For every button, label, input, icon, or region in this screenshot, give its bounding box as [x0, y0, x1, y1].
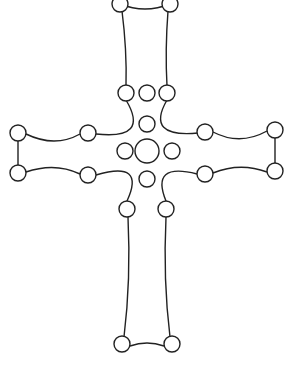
lower-junction-left-node: [119, 201, 135, 217]
lower-right-curve: [162, 171, 197, 201]
cross-nodes: [10, 0, 283, 352]
bottom-arm-left-edge: [124, 217, 129, 337]
center-main-node: [135, 139, 159, 163]
center-left-node: [117, 143, 133, 159]
left-arm-top-edge: [26, 134, 80, 141]
left-arm-bottom-edge: [26, 167, 80, 174]
bottom-arm-right-edge: [165, 217, 170, 337]
lower-left-curve: [96, 171, 132, 201]
center-right-node: [164, 143, 180, 159]
upper-left-curve: [96, 100, 133, 135]
left-arm-inner-top-node: [80, 125, 96, 141]
top-right-node: [162, 0, 178, 12]
right-arm-inner-top-node: [197, 124, 213, 140]
right-arm-top-edge: [213, 131, 267, 139]
bottom-right-node: [164, 336, 180, 352]
center-top-node: [139, 116, 155, 132]
left-arm-outer-top-node: [10, 125, 26, 141]
left-arm-inner-bottom-node: [80, 167, 96, 183]
right-arm-outer-top-node: [267, 122, 283, 138]
lower-junction-right-node: [158, 201, 174, 217]
bottom-left-node: [114, 336, 130, 352]
left-arm-outer-bottom-node: [10, 165, 26, 181]
right-arm-outer-bottom-node: [267, 163, 283, 179]
right-arm-bottom-edge: [213, 167, 267, 173]
center-bottom-node: [139, 171, 155, 187]
cross-diagram: [0, 0, 293, 371]
upper-junction-right-node: [159, 85, 175, 101]
upper-right-curve: [161, 100, 198, 134]
right-arm-inner-bottom-node: [197, 166, 213, 182]
top-arm-right-edge: [166, 11, 168, 86]
upper-junction-left-node: [118, 85, 134, 101]
upper-junction-middle-node: [139, 85, 155, 101]
top-left-node: [112, 0, 128, 12]
bottom-arm-bottom-edge: [130, 343, 164, 346]
top-arm-left-edge: [122, 11, 126, 86]
